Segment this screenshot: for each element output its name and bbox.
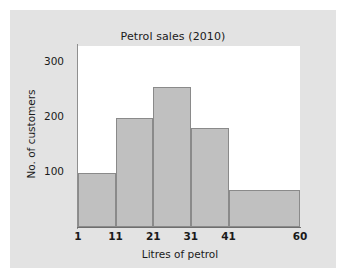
x-tick-31: 31 (179, 230, 203, 242)
x-tick-60: 60 (288, 230, 312, 242)
x-tick-21: 21 (141, 230, 165, 242)
bar-21-31 (153, 87, 191, 227)
y-axis-line (77, 44, 78, 229)
x-tick-1: 1 (66, 230, 90, 242)
bars-layer (78, 46, 300, 227)
figure-panel: Petrol sales (2010) 100200300 1112131416… (10, 10, 336, 268)
y-tick-300: 300 (24, 55, 64, 67)
x-tick-41: 41 (217, 230, 241, 242)
x-axis-line (77, 227, 301, 228)
y-axis-title: No. of customers (25, 79, 37, 189)
plot-area (78, 46, 300, 227)
chart-screenshot: Petrol sales (2010) 100200300 1112131416… (0, 0, 346, 277)
bar-1-11 (78, 173, 116, 227)
x-tick-11: 11 (104, 230, 128, 242)
x-axis-title: Litres of petrol (50, 248, 310, 260)
chart-title: Petrol sales (2010) (10, 30, 336, 43)
bar-11-21 (116, 118, 154, 227)
bar-41-60 (229, 190, 300, 227)
bar-31-41 (191, 128, 229, 227)
